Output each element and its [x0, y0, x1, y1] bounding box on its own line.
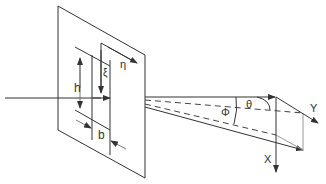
diffracted-beam: [145, 97, 303, 150]
theta-label: θ: [246, 98, 252, 110]
slit-diffraction-diagram: h ξ b η Φ: [0, 0, 326, 184]
xi-label: ξ: [103, 67, 108, 79]
phi-label: Φ: [221, 106, 230, 118]
eta-label: η: [120, 58, 126, 70]
slit-plane-eta: [101, 43, 137, 155]
phi-angle: Φ: [221, 97, 237, 124]
xi-axis: ξ: [93, 50, 110, 98]
theta-angle: θ: [246, 97, 270, 110]
x-axis-label: X: [264, 153, 272, 165]
y-axis-label: Y: [310, 102, 318, 114]
h-dimension: h: [74, 58, 81, 108]
h-label: h: [74, 81, 81, 95]
b-label: b: [98, 128, 105, 142]
